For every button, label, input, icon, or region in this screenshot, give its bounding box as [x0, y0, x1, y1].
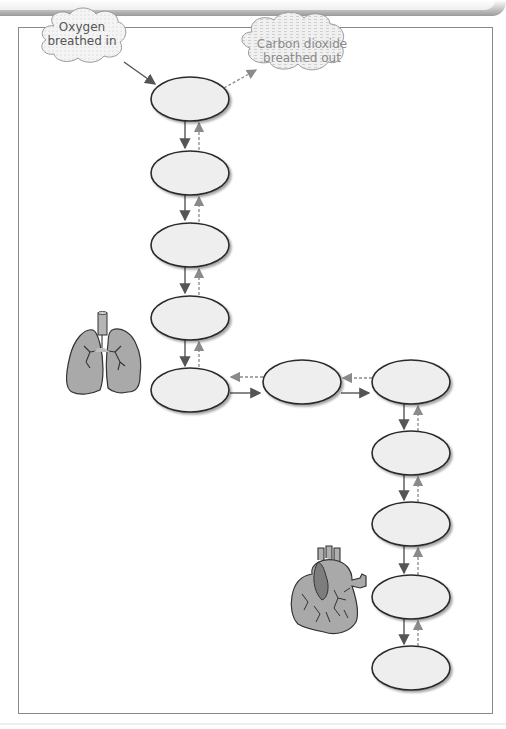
answer-box-11[interactable]	[372, 646, 450, 690]
answer-box-10[interactable]	[372, 575, 450, 619]
answer-box-8[interactable]	[372, 431, 450, 475]
answer-box-4[interactable]	[151, 296, 229, 340]
answer-box-9[interactable]	[372, 502, 450, 546]
answer-box-7[interactable]	[372, 360, 450, 404]
heart-icon	[291, 546, 366, 634]
diagram-canvas	[0, 0, 506, 729]
lungs-icon	[67, 311, 141, 394]
arrow-oxygen-in	[124, 62, 155, 84]
cloud-oxygen-line2: breathed in	[42, 34, 122, 48]
cloud-co2-line1: Carbon dioxide	[250, 37, 354, 51]
cloud-co2-line2: breathed out	[250, 51, 354, 65]
answer-box-3[interactable]	[151, 223, 229, 267]
arrow-co2-out	[224, 70, 256, 88]
answer-box-1[interactable]	[151, 77, 229, 121]
answer-box-2[interactable]	[151, 151, 229, 195]
cloud-co2-label: Carbon dioxide breathed out	[250, 37, 354, 65]
answer-box-6[interactable]	[263, 360, 341, 404]
cloud-oxygen-line1: Oxygen	[42, 20, 122, 34]
cloud-oxygen-label: Oxygen breathed in	[42, 20, 122, 48]
answer-box-5[interactable]	[151, 368, 229, 412]
